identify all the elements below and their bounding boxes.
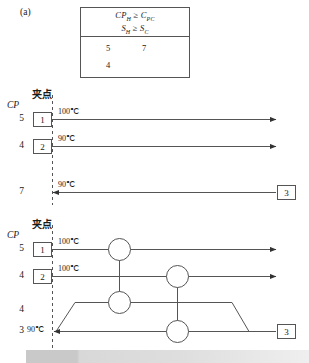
- cp-value-bottom-4: 3: [10, 325, 24, 335]
- cp-value-bottom-3: 4: [10, 304, 24, 314]
- stream-box-bottom-2[interactable]: 2: [33, 269, 52, 284]
- figure-canvas: (a) CPH ≥ CPC SH ≥ SC 5 7 4 夹点 CP 5 4 7 …: [0, 0, 309, 363]
- cp-value-top-1: 5: [10, 113, 24, 123]
- criterion-value-r1c2: 7: [142, 43, 146, 53]
- criterion-s-h: SH: [121, 23, 130, 33]
- criterion-value-r1c1: 5: [106, 43, 110, 53]
- cp-header-top: CP: [7, 100, 19, 110]
- bottom-cropped-band: [26, 350, 309, 363]
- temp-label-top-2: 90℃: [58, 134, 75, 143]
- cp-header-bottom: CP: [7, 230, 19, 240]
- cp-value-top-3: 7: [10, 186, 24, 196]
- hx-a-cold-icon[interactable]: [109, 292, 131, 314]
- figure-label: (a): [20, 7, 31, 17]
- hx-b-cold-icon[interactable]: [167, 321, 189, 343]
- cp-value-bottom-2: 4: [10, 270, 24, 280]
- criterion-ge-2: ≥: [133, 23, 138, 33]
- stream-box-top-3[interactable]: 3: [277, 185, 296, 200]
- criterion-cp-h: CPH: [115, 10, 131, 20]
- hx-a-hot-icon[interactable]: [109, 239, 131, 261]
- stream-box-bottom-3[interactable]: 3: [277, 324, 296, 339]
- criterion-s-c: SC: [140, 23, 149, 33]
- stream-box-top-1[interactable]: 1: [33, 112, 52, 127]
- criterion-table-body: 5 7 4: [81, 37, 189, 77]
- pinch-label-top: 夹点: [32, 86, 52, 101]
- temp-label-bottom-4: 90℃: [27, 325, 44, 334]
- temp-label-top-1: 100℃: [58, 107, 79, 116]
- cp-value-top-2: 4: [10, 140, 24, 150]
- stream-box-top-2[interactable]: 2: [33, 139, 52, 154]
- criterion-table-header: CPH ≥ CPC SH ≥ SC: [81, 8, 189, 37]
- criterion-ge-1: ≥: [133, 10, 138, 20]
- criterion-line-s: SH ≥ SC: [121, 23, 148, 35]
- criterion-line-cp: CPH ≥ CPC: [115, 10, 154, 22]
- cp-value-bottom-1: 5: [10, 243, 24, 253]
- pinch-label-bottom: 夹点: [32, 216, 52, 231]
- stream-branch-bottom-3: [56, 303, 249, 332]
- criterion-table: CPH ≥ CPC SH ≥ SC 5 7 4: [80, 7, 190, 78]
- temp-label-bottom-1: 100℃: [58, 237, 79, 246]
- stream-box-bottom-1[interactable]: 1: [33, 242, 52, 257]
- temp-label-top-3: 90℃: [58, 180, 75, 189]
- hx-b-hot-icon[interactable]: [167, 266, 189, 288]
- criterion-c-pc: CPC: [141, 10, 155, 20]
- criterion-value-r2c1: 4: [106, 60, 110, 70]
- temp-label-bottom-2: 100℃: [58, 264, 79, 273]
